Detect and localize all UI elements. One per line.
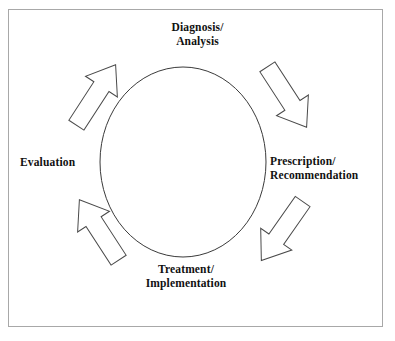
arrow-diagnosis-to-prescription bbox=[251, 56, 322, 137]
label-treatment-implementation: Treatment/ Implementation bbox=[0, 262, 372, 290]
label-treatment-line2: Implementation bbox=[0, 276, 372, 290]
label-treatment-line1: Treatment/ bbox=[0, 262, 372, 276]
label-evaluation-line1: Evaluation bbox=[20, 155, 75, 169]
label-prescription-recommendation: Prescription/ Recommendation bbox=[270, 154, 358, 182]
label-evaluation: Evaluation bbox=[20, 155, 75, 169]
label-diagnosis-line2: Analysis bbox=[0, 34, 395, 48]
label-diagnosis-analysis: Diagnosis/ Analysis bbox=[0, 20, 395, 48]
diagram-canvas: Diagnosis/ Analysis Prescription/ Recomm… bbox=[0, 0, 395, 341]
label-prescription-line2: Recommendation bbox=[270, 168, 358, 182]
label-diagnosis-line1: Diagnosis/ bbox=[0, 20, 395, 34]
label-prescription-line1: Prescription/ bbox=[270, 154, 358, 168]
center-ellipse bbox=[100, 67, 266, 257]
